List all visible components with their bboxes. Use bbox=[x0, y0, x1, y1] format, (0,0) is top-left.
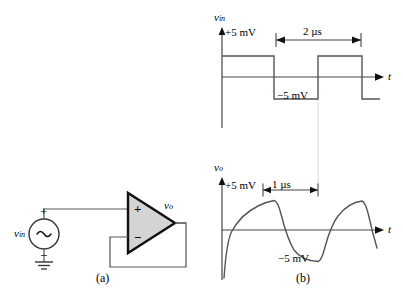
vo-interval-label: 1 µs bbox=[272, 179, 291, 190]
vo-negative-level-label: −5 mV bbox=[278, 253, 309, 264]
ac-sine-icon bbox=[37, 232, 51, 237]
caption-b: (b) bbox=[296, 272, 310, 284]
vo-exponential-wave bbox=[224, 201, 377, 279]
source-label: vin bbox=[14, 228, 25, 239]
source-top-wire bbox=[44, 209, 128, 219]
opamp-noninverting-input-sign: + bbox=[134, 202, 141, 215]
vo-positive-level-label: +5 mV bbox=[225, 180, 256, 191]
figure-canvas bbox=[0, 0, 403, 299]
vin-period-label: 2 µs bbox=[303, 26, 322, 37]
output-waveform-plot bbox=[219, 177, 384, 280]
vin-positive-level-label: +5 mV bbox=[225, 27, 256, 38]
caption-a: (a) bbox=[96, 272, 109, 284]
source-plus-sign: + bbox=[40, 205, 47, 218]
input-waveform-plot bbox=[219, 27, 384, 186]
vo-t-axis-arrow bbox=[375, 226, 384, 234]
opamp-output-label: vo bbox=[164, 200, 173, 211]
ground-symbol bbox=[35, 262, 53, 269]
opamp-inverting-input-sign: − bbox=[134, 231, 141, 244]
vo-time-axis-label: t bbox=[388, 224, 391, 235]
vin-axis-label: vin bbox=[214, 12, 225, 23]
vo-axis-label: vo bbox=[214, 162, 223, 173]
vin-t-axis-arrow bbox=[375, 73, 384, 81]
source-minus-sign: − bbox=[40, 249, 47, 262]
vin-time-axis-label: t bbox=[388, 71, 391, 82]
circuit-diagram bbox=[29, 193, 186, 269]
vin-negative-level-label: −5 mV bbox=[277, 90, 308, 101]
